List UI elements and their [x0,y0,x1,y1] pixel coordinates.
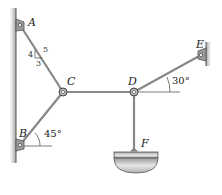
joint-C [59,88,67,96]
label-A: A [27,16,36,29]
slope-run: 3 [36,59,41,68]
left-wall [10,8,16,163]
slope-hyp: 5 [43,45,48,54]
angle-D-label: 30° [172,75,190,86]
label-E: E [195,38,204,51]
member-AC [20,25,63,92]
label-F: F [140,137,149,150]
slope-rise: 4 [28,50,33,59]
hanging-bowl [114,149,158,173]
support-B [16,139,24,151]
label-D: D [127,75,137,88]
angle-B-label: 45° [44,128,62,139]
joint-D [130,88,138,96]
label-C: C [67,75,76,88]
support-A [16,19,24,31]
right-wall [206,42,211,66]
member-DE [134,55,201,92]
angle-B: 45° [24,128,62,146]
angle-D: 30° [138,75,190,92]
diagram-canvas: 4 3 5 45° 30° A B C D E F [0,0,222,195]
label-B: B [18,127,27,140]
